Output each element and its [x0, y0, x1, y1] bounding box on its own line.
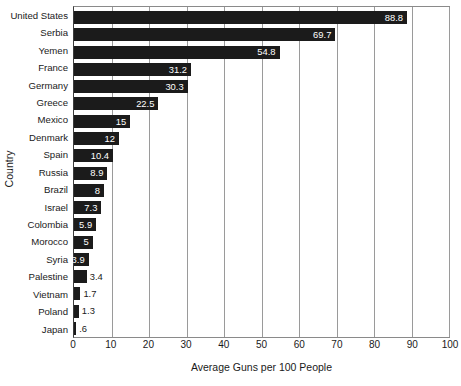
bar: 3.9: [74, 253, 89, 266]
bar-value-label: 3.9: [72, 255, 89, 264]
category-label: United States: [16, 7, 71, 24]
x-axis-tick-label: 60: [294, 340, 305, 350]
x-axis-tick-label: 90: [407, 340, 418, 350]
bar: 88.8: [74, 11, 407, 24]
x-axis-tick-label: 10: [105, 340, 116, 350]
bar-row: 7.3: [74, 199, 449, 216]
category-label: Palestine: [16, 268, 71, 285]
bar-value-label: 88.8: [385, 13, 407, 22]
bar-row: 5: [74, 233, 449, 250]
category-label: Syria: [16, 251, 71, 268]
plot-area: 88.869.754.831.230.322.5151210.48.987.35…: [73, 6, 450, 338]
category-label: Israel: [16, 199, 71, 216]
bar-row: 1.3: [74, 303, 449, 320]
bar-value-label: 12: [105, 134, 119, 143]
bar-row: 8: [74, 182, 449, 199]
bar-value-label: 5.9: [79, 220, 96, 229]
x-axis-tick-label: 30: [181, 340, 192, 350]
bar-value-label: 69.7: [313, 30, 335, 39]
bar-value-label: 1.7: [80, 289, 96, 298]
category-label: Brazil: [16, 181, 71, 198]
bar-value-label: 54.8: [257, 47, 279, 56]
bar: 8: [74, 184, 104, 197]
category-label: Colombia: [16, 216, 71, 233]
x-axis-tick-label: 40: [218, 340, 229, 350]
bar: 15: [74, 115, 130, 128]
bar-row: 12: [74, 130, 449, 147]
category-label: Yemen: [16, 42, 71, 59]
bar-row: 15: [74, 113, 449, 130]
bar-value-label: 5: [84, 237, 93, 246]
gridline: [449, 7, 450, 337]
category-label: Morocco: [16, 233, 71, 250]
bar-row: 3.4: [74, 268, 449, 285]
bar: 1.7: [74, 287, 80, 300]
bar: 5.9: [74, 218, 96, 231]
bar-series: 88.869.754.831.230.322.5151210.48.987.35…: [74, 7, 449, 337]
x-axis-tick-label: 80: [369, 340, 380, 350]
category-label: Mexico: [16, 112, 71, 129]
bar: 30.3: [74, 80, 188, 93]
x-axis-tick-label: 20: [143, 340, 154, 350]
bar-value-label: .6: [76, 324, 87, 333]
bar-row: 54.8: [74, 44, 449, 61]
bar: 3.4: [74, 270, 87, 283]
category-label: Germany: [16, 77, 71, 94]
bar-value-label: 30.3: [165, 82, 187, 91]
bar-value-label: 10.4: [91, 151, 113, 160]
bar-row: 3.9: [74, 251, 449, 268]
bar-value-label: 1.3: [79, 306, 95, 315]
bar: 1.3: [74, 305, 79, 318]
bar-chart: Country United StatesSerbiaYemenFranceGe…: [0, 0, 461, 386]
bar-value-label: 15: [116, 117, 130, 126]
bar-value-label: 22.5: [136, 99, 158, 108]
bar-row: 30.3: [74, 78, 449, 95]
bar: 5: [74, 236, 93, 249]
bar-row: 22.5: [74, 95, 449, 112]
y-axis-title-text: Country: [3, 151, 15, 188]
bar: 10.4: [74, 149, 113, 162]
bar-value-label: 8.9: [90, 168, 107, 177]
x-axis-tick-label: 100: [442, 340, 459, 350]
bar: 22.5: [74, 97, 158, 110]
bar-value-label: 7.3: [84, 203, 101, 212]
category-label: Vietnam: [16, 286, 71, 303]
category-label: Serbia: [16, 24, 71, 41]
x-axis-tick-label: 70: [331, 340, 342, 350]
bar-row: 31.2: [74, 61, 449, 78]
bar: 8.9: [74, 167, 107, 180]
bar-value-label: 31.2: [169, 65, 191, 74]
bar-value-label: 8: [95, 186, 104, 195]
bar-row: 8.9: [74, 164, 449, 181]
category-label: Spain: [16, 146, 71, 163]
x-axis-ticks: 0102030405060708090100: [73, 340, 450, 356]
bar: 54.8: [74, 46, 280, 59]
bar-row: 88.8: [74, 9, 449, 26]
bar: .6: [74, 322, 76, 335]
category-label: Japan: [16, 321, 71, 338]
bar: 69.7: [74, 28, 335, 41]
x-axis-title: Average Guns per 100 People: [73, 361, 450, 373]
bar-row: 5.9: [74, 216, 449, 233]
bar-row: 69.7: [74, 26, 449, 43]
category-label: Denmark: [16, 129, 71, 146]
bar: 31.2: [74, 63, 191, 76]
bar-row: 1.7: [74, 285, 449, 302]
category-label: Poland: [16, 303, 71, 320]
bar-row: .6: [74, 320, 449, 337]
bar: 7.3: [74, 201, 101, 214]
bar-value-label: 3.4: [87, 272, 103, 281]
bar-row: 10.4: [74, 147, 449, 164]
x-axis-tick-label: 0: [70, 340, 76, 350]
category-axis-labels: United StatesSerbiaYemenFranceGermanyGre…: [16, 7, 71, 338]
bar: 12: [74, 132, 119, 145]
x-axis-tick-label: 50: [256, 340, 267, 350]
category-label: Greece: [16, 94, 71, 111]
category-label: Russia: [16, 164, 71, 181]
category-label: France: [16, 59, 71, 76]
